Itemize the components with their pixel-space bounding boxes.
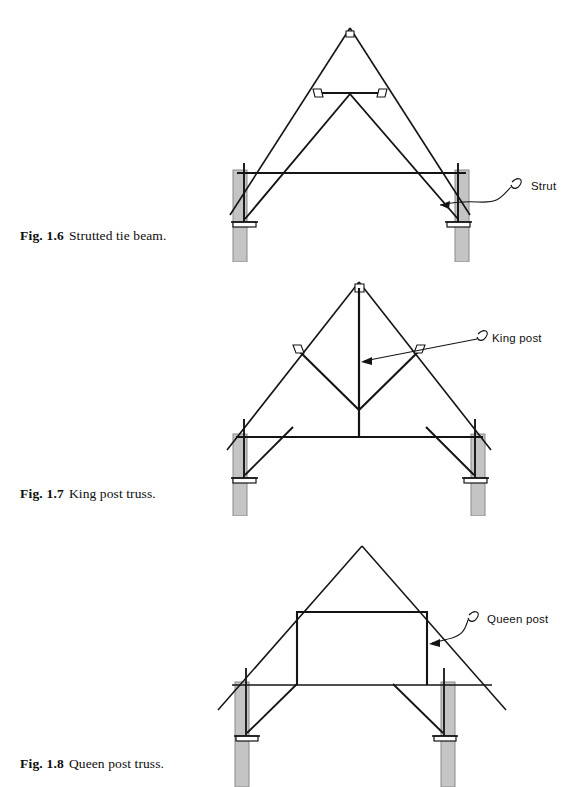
figure-1-8-caption-text: Queen post truss. <box>69 756 164 771</box>
figure-1-8-caption: Fig. 1.8Queen post truss. <box>20 757 164 772</box>
rafter-right <box>350 28 470 215</box>
figure-1-6-number: Fig. 1.6 <box>20 228 64 243</box>
base-plate-right <box>445 222 472 227</box>
figure-1-7-king-post-truss <box>0 262 577 516</box>
figure-1-8-queen-post-truss <box>0 516 577 787</box>
king-post-arrowhead <box>361 357 372 365</box>
base-plate-left <box>231 478 258 483</box>
brace-left <box>297 349 359 410</box>
strut-right <box>393 684 443 733</box>
strut-arrowhead <box>440 201 450 209</box>
textbook-page: Fig. 1.6Strutted tie beam. Strut <box>0 0 577 787</box>
strut-left <box>245 427 293 475</box>
figure-1-8-number: Fig. 1.8 <box>20 756 64 771</box>
queen-post-leader-line <box>432 612 478 643</box>
collar-joint-left <box>313 89 323 97</box>
figure-1-7-caption: Fig. 1.7King post truss. <box>20 487 156 502</box>
annotation-label-strut: Strut <box>531 180 556 192</box>
figure-1-6-strutted-tie-beam <box>0 0 577 262</box>
figure-1-8-drawing <box>0 516 577 787</box>
strut-leader-line <box>440 179 521 205</box>
base-plate-left <box>231 222 258 227</box>
annotation-label-queen-post: Queen post <box>487 613 548 625</box>
queen-post-arrowhead <box>429 639 440 647</box>
figure-1-7-drawing <box>0 262 577 516</box>
figure-1-6-drawing <box>0 0 577 262</box>
rafter-left <box>227 282 359 450</box>
rafter-left <box>230 28 350 215</box>
strut-left <box>247 684 297 733</box>
figure-1-7-caption-text: King post truss. <box>69 486 156 501</box>
rafter-right <box>359 282 491 450</box>
strut-left <box>245 94 350 219</box>
king-post-leader-line <box>364 331 487 361</box>
collar-joint-right <box>377 89 387 97</box>
strut-right <box>426 427 474 475</box>
brace-right <box>359 349 421 410</box>
base-plate-right <box>462 478 489 483</box>
base-plate-left <box>234 736 260 741</box>
figure-1-7-number: Fig. 1.7 <box>20 486 64 501</box>
figure-1-6-caption: Fig. 1.6Strutted tie beam. <box>20 229 166 244</box>
figure-1-6-caption-text: Strutted tie beam. <box>69 228 166 243</box>
apex-joint <box>346 31 354 37</box>
brace-joint-left <box>293 345 304 353</box>
base-plate-right <box>432 736 458 741</box>
annotation-label-king-post: King post <box>492 332 542 344</box>
